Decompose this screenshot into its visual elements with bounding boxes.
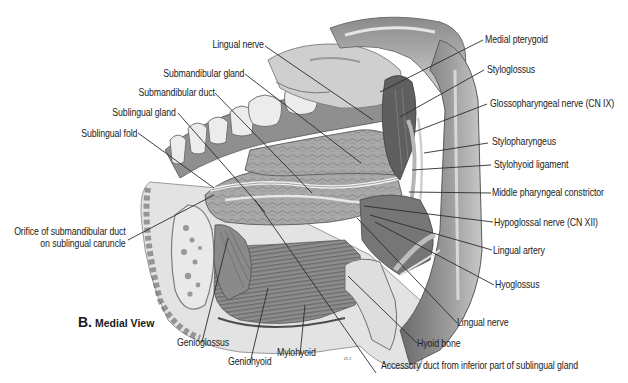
label-geniohyoid: Geniohyoid — [228, 356, 271, 368]
label-stylohyoid-ligament: Stylohyoid ligament — [494, 159, 568, 171]
figure-caption: B.Medial View — [78, 313, 154, 331]
label-middle-pharyngeal-constrictor: Middle pharyngeal constrictor — [492, 187, 604, 199]
label-hyoglossus: Hyoglossus — [495, 279, 539, 291]
label-sublingual-gland: Sublingual gland — [113, 107, 176, 119]
caption-letter: B. — [78, 314, 92, 330]
label-styloglossus: Styloglossus — [487, 64, 535, 76]
artist-signature: D.J. — [343, 356, 352, 361]
label-stylopharyngeus: Stylopharyngeus — [492, 136, 556, 148]
label-lingual-nerve-bottom: Lingual nerve — [457, 317, 508, 329]
label-genioglossus: Genioglossus — [177, 337, 229, 349]
caption-view-name: Medial View — [95, 317, 154, 329]
label-lingual-artery: Lingual artery — [493, 245, 545, 257]
label-accessory-duct: Accessory duct from inferior part of sub… — [381, 360, 578, 372]
label-hyoid-bone: Hyoid bone — [417, 338, 460, 350]
label-orifice-line-1: Orifice of submandibular duct — [15, 226, 126, 238]
label-orifice-line-2: on sublingual caruncle — [15, 238, 126, 250]
label-submandibular-duct: Submandibular duct — [139, 87, 215, 99]
label-medial-pterygoid: Medial pterygoid — [485, 34, 548, 46]
label-sublingual-fold: Sublingual fold — [81, 128, 137, 140]
label-hypoglossal-nerve: Hypoglossal nerve (CN XII) — [494, 217, 598, 229]
label-lingual-nerve-top: Lingual nerve — [213, 39, 264, 51]
label-orifice-submandibular-duct: Orifice of submandibular duct on subling… — [15, 226, 126, 250]
label-mylohyoid: Mylohyoid — [277, 347, 316, 359]
label-submandibular-gland: Submandibular gland — [163, 68, 244, 80]
label-glossopharyngeal-nerve: Glossopharyngeal nerve (CN IX) — [490, 98, 614, 110]
